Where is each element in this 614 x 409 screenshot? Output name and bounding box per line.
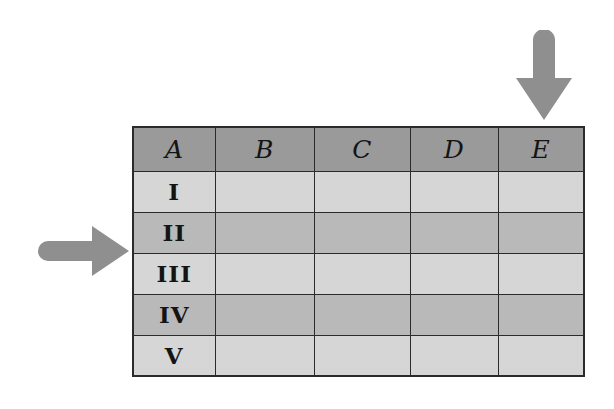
spreadsheet-grid: A B C D E I II III <box>132 126 585 377</box>
cell-e3[interactable] <box>498 253 584 294</box>
column-header-d[interactable]: D <box>410 127 498 171</box>
row-label-iii[interactable]: III <box>133 253 215 294</box>
table-header-row: A B C D E <box>133 127 584 171</box>
row-label-v[interactable]: V <box>133 335 215 376</box>
column-header-c[interactable]: C <box>314 127 410 171</box>
cell-c2[interactable] <box>314 212 410 253</box>
arrow-right-icon <box>36 225 130 277</box>
table-row: V <box>133 335 584 376</box>
cell-e1[interactable] <box>498 171 584 212</box>
cell-c1[interactable] <box>314 171 410 212</box>
cell-d2[interactable] <box>410 212 498 253</box>
row-label-ii[interactable]: II <box>133 212 215 253</box>
table-row: IV <box>133 294 584 335</box>
cell-b2[interactable] <box>215 212 314 253</box>
table-row: I <box>133 171 584 212</box>
cell-d3[interactable] <box>410 253 498 294</box>
cell-c3[interactable] <box>314 253 410 294</box>
cell-c5[interactable] <box>314 335 410 376</box>
cell-d5[interactable] <box>410 335 498 376</box>
cell-d4[interactable] <box>410 294 498 335</box>
cell-c4[interactable] <box>314 294 410 335</box>
column-header-a[interactable]: A <box>133 127 215 171</box>
arrow-down-icon <box>515 30 573 122</box>
cell-e4[interactable] <box>498 294 584 335</box>
cell-e5[interactable] <box>498 335 584 376</box>
cell-b5[interactable] <box>215 335 314 376</box>
diagram-canvas: A B C D E I II III <box>0 0 614 409</box>
cell-d1[interactable] <box>410 171 498 212</box>
cell-b3[interactable] <box>215 253 314 294</box>
row-label-iv[interactable]: IV <box>133 294 215 335</box>
cell-e2[interactable] <box>498 212 584 253</box>
row-label-i[interactable]: I <box>133 171 215 212</box>
table-row: II <box>133 212 584 253</box>
table-row: III <box>133 253 584 294</box>
cell-b4[interactable] <box>215 294 314 335</box>
cell-b1[interactable] <box>215 171 314 212</box>
column-header-b[interactable]: B <box>215 127 314 171</box>
column-header-e[interactable]: E <box>498 127 584 171</box>
